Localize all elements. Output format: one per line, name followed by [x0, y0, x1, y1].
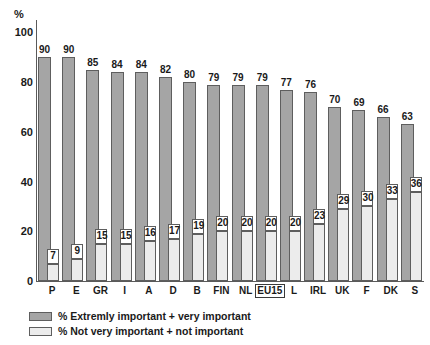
bar-group: 6336 — [400, 20, 424, 281]
bar-value-label: 20 — [289, 216, 301, 231]
legend-label: % Extremly important + very important — [58, 311, 251, 322]
legend-swatch-dark — [29, 312, 52, 321]
legend-item: % Not very important + not important — [29, 325, 251, 338]
bar-value-label: 16 — [144, 226, 156, 241]
bar-value-label: 85 — [84, 58, 101, 68]
bar-group: 8019 — [182, 20, 206, 281]
bar-not-important — [144, 241, 156, 281]
bar-value-label: 84 — [109, 60, 126, 70]
bar-value-label: 79 — [230, 73, 247, 83]
bar-value-label: 90 — [36, 45, 53, 55]
y-tick-label: 60 — [3, 126, 33, 137]
y-tick-label: 40 — [3, 176, 33, 187]
bar-value-label: 19 — [192, 219, 204, 234]
bar-value-label: 66 — [375, 105, 392, 115]
bar-value-label: 20 — [216, 216, 228, 231]
y-tick-label: 100 — [3, 27, 33, 38]
bar-group: 7029 — [327, 20, 351, 281]
bar-value-label: 77 — [278, 78, 295, 88]
bar-value-label: 76 — [302, 80, 319, 90]
bar-not-important — [289, 231, 301, 281]
x-axis-line — [36, 281, 424, 282]
bar-value-label: 90 — [60, 45, 77, 55]
bar-group: 8217 — [158, 20, 182, 281]
bar-group: 6930 — [351, 20, 375, 281]
bar-not-important — [216, 231, 228, 281]
bar-extremely-important — [38, 57, 51, 281]
bar-value-label: 7 — [47, 249, 59, 264]
bar-group: 909 — [61, 20, 85, 281]
plot-area: 9079098515841584168217801979207920792077… — [37, 20, 424, 281]
bar-not-important — [71, 259, 83, 281]
legend-label: % Not very important + not important — [58, 326, 243, 337]
bar-value-label: 84 — [133, 60, 150, 70]
x-axis: PEGRIADBFINNLEU15LIRLUKFDKS — [37, 284, 424, 302]
legend-swatch-light — [29, 327, 52, 336]
bar-group: 7623 — [303, 20, 327, 281]
bar-group: 8515 — [85, 20, 109, 281]
bar-group: 7920 — [231, 20, 255, 281]
bar-value-label: 29 — [337, 194, 349, 209]
bar-not-important — [241, 231, 253, 281]
y-tick-label: 80 — [3, 77, 33, 88]
bar-value-label: 20 — [241, 216, 253, 231]
bar-value-label: 69 — [350, 98, 367, 108]
bar-group: 8416 — [134, 20, 158, 281]
bar-value-label: 30 — [361, 191, 373, 206]
x-tick-label-s: S — [400, 284, 430, 297]
bar-value-label: 15 — [95, 229, 107, 244]
bar-not-important — [192, 234, 204, 281]
bar-not-important — [386, 199, 398, 281]
bar-value-label: 63 — [399, 112, 416, 122]
bar-not-important — [410, 192, 422, 281]
legend-item: % Extremly important + very important — [29, 310, 251, 323]
bar-value-label: 15 — [120, 229, 132, 244]
y-tick-label: 20 — [3, 226, 33, 237]
bar-value-label: 70 — [326, 95, 343, 105]
bar-not-important — [265, 231, 277, 281]
bar-value-label: 36 — [410, 177, 422, 192]
y-axis-unit-label: % — [14, 8, 24, 20]
bar-value-label: 79 — [205, 73, 222, 83]
bar-group: 907 — [37, 20, 61, 281]
chart-legend: % Extremly important + very important% N… — [29, 310, 251, 340]
bar-value-label: 79 — [254, 73, 271, 83]
bar-not-important — [337, 209, 349, 281]
bar-group: 7920 — [206, 20, 230, 281]
bar-not-important — [95, 244, 107, 281]
bar-value-label: 23 — [313, 209, 325, 224]
bar-value-label: 80 — [181, 70, 198, 80]
bar-group: 7920 — [255, 20, 279, 281]
bar-not-important — [313, 224, 325, 281]
y-axis: 020406080100 — [0, 0, 33, 345]
bar-not-important — [120, 244, 132, 281]
bar-not-important — [47, 264, 59, 281]
bar-value-label: 82 — [157, 65, 174, 75]
bar-group: 7720 — [279, 20, 303, 281]
bar-value-label: 33 — [386, 184, 398, 199]
bar-not-important — [168, 239, 180, 281]
bar-value-label: 20 — [265, 216, 277, 231]
bar-value-label: 9 — [71, 244, 83, 259]
bar-value-label: 17 — [168, 224, 180, 239]
bar-group: 8415 — [110, 20, 134, 281]
bar-not-important — [361, 206, 373, 281]
bar-chart: 020406080100 % 9079098515841584168217801… — [0, 0, 430, 345]
y-tick-label: 0 — [3, 276, 33, 287]
bar-group: 6633 — [376, 20, 400, 281]
